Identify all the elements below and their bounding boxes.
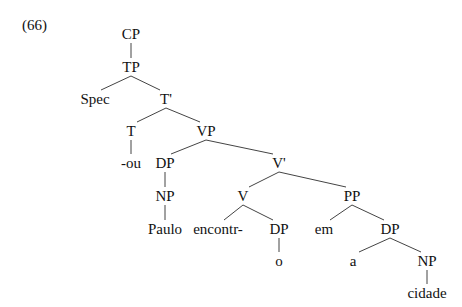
node-tp: TP: [122, 59, 140, 75]
branch-dp3-np2: [390, 238, 421, 252]
branch-tp-tbar: [131, 76, 160, 90]
node-v-bar: V': [272, 155, 286, 171]
leaf-em: em: [315, 221, 333, 237]
branch-tbar-t: [137, 108, 166, 122]
leaf-a: a: [350, 253, 357, 269]
node-v: V: [238, 188, 249, 204]
leaf-ou: -ou: [121, 155, 141, 171]
node-t: T: [126, 123, 135, 139]
branch-vp-vbar: [206, 140, 273, 154]
branch-pp-dp3: [352, 205, 384, 220]
leaf-cidade: cidade: [407, 285, 446, 301]
node-np-object: NP: [417, 253, 436, 269]
branch-tp-spec: [101, 76, 131, 90]
branch-vp-dp1: [171, 140, 206, 154]
node-dp-clitic: DP: [269, 221, 288, 237]
branch-tbar-vp: [166, 108, 200, 122]
leaf-o: o: [275, 253, 283, 269]
branch-dp3-a: [359, 238, 390, 252]
node-spec: Spec: [80, 91, 109, 107]
branch-v-encontr: [224, 205, 243, 220]
branch-vbar-pp: [279, 172, 346, 187]
node-t-bar: T': [160, 91, 172, 107]
node-np-subject: NP: [155, 188, 174, 204]
node-dp-subject: DP: [155, 155, 174, 171]
leaf-encontr: encontr-: [193, 221, 243, 237]
branch-pp-em: [330, 205, 352, 220]
tree-branches: [0, 0, 462, 307]
branch-v-dp2: [243, 205, 273, 220]
branch-vbar-v: [249, 172, 279, 187]
leaf-paulo: Paulo: [148, 221, 182, 237]
node-cp: CP: [122, 26, 140, 42]
syntax-tree: CP TP Spec T' T VP -ou DP V' NP V PP Pau…: [0, 0, 462, 307]
node-vp: VP: [196, 123, 215, 139]
node-dp-object: DP: [380, 221, 399, 237]
node-pp: PP: [344, 188, 361, 204]
